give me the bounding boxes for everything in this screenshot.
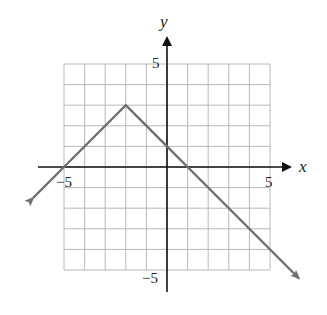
- x-min-tick-label: −5: [56, 174, 72, 190]
- y-axis-label: y: [158, 12, 168, 31]
- y-max-tick-label: 5: [152, 55, 160, 71]
- y-min-tick-label: −5: [142, 270, 158, 286]
- x-max-tick-label: 5: [265, 174, 273, 190]
- graph-line: [33, 105, 299, 278]
- x-axis-label: x: [298, 157, 307, 176]
- coordinate-plane: x y −5 5 5 −5: [0, 0, 327, 315]
